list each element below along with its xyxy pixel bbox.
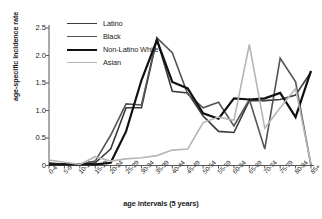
legend-swatch-icon [67, 23, 97, 24]
plot-area [0, 0, 322, 219]
legend-label: Black [103, 32, 121, 41]
legend-label: Non-Latino White [103, 45, 159, 54]
legend-item[interactable]: Latino [67, 17, 159, 30]
legend: LatinoBlackNon-Latino WhiteAsian [67, 17, 159, 69]
legend-label: Asian [103, 58, 121, 67]
legend-item[interactable]: Black [67, 30, 159, 43]
legend-label: Latino [103, 19, 123, 28]
legend-swatch-icon [67, 49, 97, 51]
legend-item[interactable]: Non-Latino White [67, 43, 159, 56]
legend-swatch-icon [67, 36, 97, 37]
chart-container: age-specific incidence rate age interval… [0, 0, 322, 219]
legend-item[interactable]: Asian [67, 56, 159, 69]
legend-swatch-icon [67, 62, 97, 63]
